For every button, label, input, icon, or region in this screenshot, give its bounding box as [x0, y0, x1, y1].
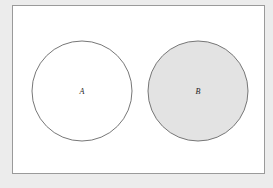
venn-diagram: A B [0, 0, 273, 188]
set-a-label: A [79, 87, 85, 96]
set-b-label: B [196, 87, 201, 96]
